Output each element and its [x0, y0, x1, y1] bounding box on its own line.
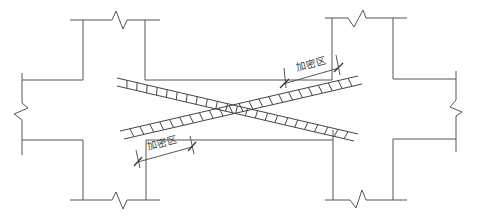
right-wall — [325, 10, 462, 208]
diagonal-bar-ascending — [120, 76, 362, 139]
left-wall — [14, 11, 160, 209]
coupling-beam-diagram — [0, 0, 482, 217]
